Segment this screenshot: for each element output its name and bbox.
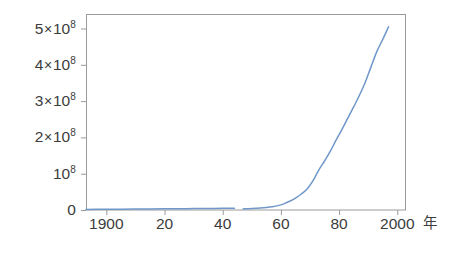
y-axis-tick-label: 5×108 (0, 21, 76, 37)
x-axis-tick-label: 2000 (380, 216, 414, 232)
x-axis-ticks (107, 210, 398, 215)
x-axis-unit-label: 年 (423, 216, 437, 231)
y-axis-ticks (81, 29, 86, 210)
x-axis-tick-labels: 1900204060802000 (0, 216, 469, 246)
x-axis-tick-label: 80 (330, 216, 347, 232)
x-axis-tick-label: 1900 (89, 216, 123, 232)
x-axis-tick-label: 40 (214, 216, 231, 232)
y-axis-tick-label: 3×108 (0, 93, 76, 109)
chart-figure: 01082×1083×1084×1085×108 190020406080200… (0, 0, 469, 262)
x-axis-tick-label: 20 (156, 216, 173, 232)
y-axis-tick-label: 108 (0, 166, 76, 182)
y-axis-tick-label: 4×108 (0, 57, 76, 73)
y-axis-tick-label: 2×108 (0, 129, 76, 145)
x-axis-tick-label: 60 (272, 216, 289, 232)
plot-frame (87, 15, 406, 211)
